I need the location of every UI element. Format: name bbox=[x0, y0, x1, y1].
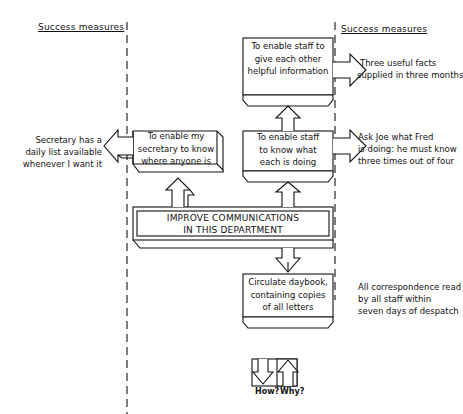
arrow-core-to-daybook bbox=[276, 248, 300, 272]
measure-line: three times out of four bbox=[358, 155, 457, 167]
core-line: IMPROVE COMMUNICATIONS bbox=[137, 212, 329, 224]
box-line: give each other bbox=[243, 53, 333, 66]
measure-line: All correspondence read bbox=[358, 281, 461, 293]
box-staff-info: To enable staff to give each other helpf… bbox=[243, 40, 333, 78]
legend-why-label: Why? bbox=[280, 387, 304, 396]
box-line: where anyone is bbox=[133, 155, 219, 168]
legend-shape bbox=[252, 359, 298, 386]
measure-line: Ask Joe what Fred bbox=[358, 131, 457, 143]
legend-how-label: How? bbox=[255, 387, 279, 396]
measure-staff-info: Three useful facts supplied in three mon… bbox=[357, 57, 463, 81]
measure-line: daily list available bbox=[2, 146, 102, 158]
arrow-staff-know-to-staff-info bbox=[276, 106, 300, 131]
arrow-core-to-secretary bbox=[166, 178, 194, 207]
measure-line: supplied in three months bbox=[357, 69, 463, 81]
box-line: helpful information bbox=[243, 65, 333, 78]
box-staff-know: To enable staff to know what each is doi… bbox=[243, 131, 333, 169]
arrow-core-to-staff-know bbox=[276, 182, 300, 207]
measure-staff-know: Ask Joe what Fred is doing: he must know… bbox=[358, 131, 457, 167]
measure-secretary: Secretary has a daily list available whe… bbox=[2, 134, 102, 170]
measure-line: Three useful facts bbox=[357, 57, 463, 69]
measure-line: seven days of despatch bbox=[358, 305, 461, 317]
box-line: each is doing bbox=[243, 156, 333, 169]
measure-line: whenever I want it bbox=[2, 158, 102, 170]
box-line: To enable staff bbox=[243, 131, 333, 144]
box-line: of all letters bbox=[243, 301, 333, 314]
box-line: Circulate daybook, bbox=[243, 276, 333, 289]
measure-line: Secretary has a bbox=[2, 134, 102, 146]
box-line: containing copies bbox=[243, 289, 333, 302]
box-line: to know what bbox=[243, 144, 333, 157]
box-line: To enable staff to bbox=[243, 40, 333, 53]
arrow-secretary-measure bbox=[104, 130, 133, 162]
left-header: Success measures bbox=[38, 22, 124, 32]
box-secretary: To enable my secretary to know where any… bbox=[133, 130, 219, 168]
core-line: IN THIS DEPARTMENT bbox=[137, 224, 329, 236]
box-daybook: Circulate daybook, containing copies of … bbox=[243, 276, 333, 314]
measure-daybook: All correspondence read by all staff wit… bbox=[358, 281, 461, 317]
measure-line: by all staff within bbox=[358, 293, 461, 305]
right-header: Success measures bbox=[341, 24, 427, 34]
box-line: To enable my bbox=[133, 130, 219, 143]
core-objective: IMPROVE COMMUNICATIONS IN THIS DEPARTMEN… bbox=[137, 212, 329, 236]
measure-line: is doing: he must know bbox=[358, 143, 457, 155]
box-line: secretary to know bbox=[133, 143, 219, 156]
